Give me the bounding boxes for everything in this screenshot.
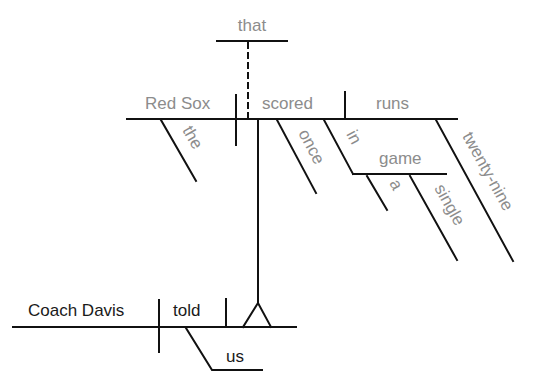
word-us: us [226,347,244,366]
word-runs: runs [376,94,409,113]
word-the: the [179,123,207,153]
us-indirect-object-line [186,328,262,370]
word-a: a [385,176,406,194]
word-scored: scored [262,94,313,113]
word-that: that [238,16,267,35]
clause-pedestal [243,303,271,327]
sentence-diagram: that Red Sox scored runs the once in gam… [0,0,545,386]
word-in: in [342,127,365,148]
word-coach-davis: Coach Davis [28,301,124,320]
word-red-sox: Red Sox [145,94,211,113]
word-game: game [379,149,422,168]
word-told: told [173,301,200,320]
word-twenty-nine: twenty-nine [459,129,518,214]
a-modifier-line [367,176,387,210]
